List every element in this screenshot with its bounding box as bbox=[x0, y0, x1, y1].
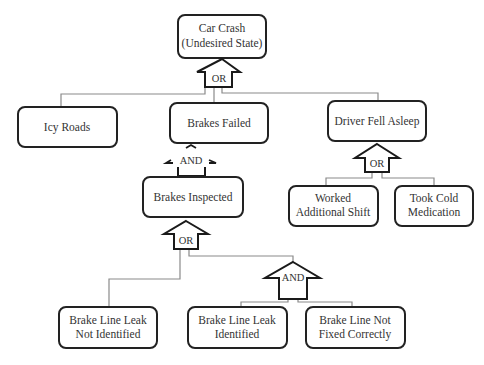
node-took-cold-medication-line1: Took Cold bbox=[410, 192, 459, 204]
gate-lower-and[interactable]: AND bbox=[265, 262, 320, 299]
and-gate-arrow-tip-icon bbox=[186, 145, 196, 148]
node-worked-additional-shift-line2: Additional Shift bbox=[296, 206, 371, 218]
connector-inspected-or-right bbox=[189, 250, 293, 262]
node-brake-line-leak-not-identified[interactable]: Brake Line Leak Not Identified bbox=[59, 307, 157, 348]
gate-driver-or[interactable]: OR bbox=[355, 144, 399, 172]
node-brake-line-leak-identified-line1: Brake Line Leak bbox=[198, 314, 276, 326]
connector-lower-and-right bbox=[298, 300, 352, 306]
gate-top-or-label: OR bbox=[212, 73, 227, 84]
connector-inspected-or-left bbox=[109, 250, 180, 306]
node-driver-fell-asleep[interactable]: Driver Fell Asleep bbox=[328, 101, 426, 141]
gate-brakes-failed-and[interactable]: AND bbox=[166, 145, 216, 176]
node-took-cold-medication[interactable]: Took Cold Medication bbox=[395, 186, 473, 226]
node-brake-line-leak-identified-line2: Identified bbox=[215, 328, 260, 340]
gate-brakes-failed-and-label: AND bbox=[180, 155, 203, 166]
node-brake-line-not-fixed-correctly-line2: Fixed Correctly bbox=[319, 328, 392, 341]
gate-inspected-or-label: OR bbox=[179, 235, 194, 246]
node-brake-line-not-fixed-correctly-line1: Brake Line Not bbox=[319, 314, 391, 326]
fault-tree-diagram: Car Crash (Undesired State) OR Icy Roads… bbox=[0, 0, 484, 365]
gate-lower-and-label: AND bbox=[282, 272, 305, 283]
node-brakes-inspected-label: Brakes Inspected bbox=[154, 191, 233, 204]
node-worked-additional-shift[interactable]: Worked Additional Shift bbox=[289, 186, 378, 226]
and-gate-arrow-body-icon bbox=[178, 167, 205, 176]
connector-lower-and-left bbox=[241, 300, 288, 306]
node-brakes-failed-label: Brakes Failed bbox=[187, 117, 251, 129]
connector-top-or-right bbox=[222, 86, 378, 101]
node-icy-roads-label: Icy Roads bbox=[44, 121, 91, 134]
gate-inspected-or[interactable]: OR bbox=[164, 221, 208, 249]
node-car-crash-line2: (Undesired State) bbox=[182, 37, 263, 50]
node-brakes-inspected[interactable]: Brakes Inspected bbox=[143, 177, 243, 217]
connector-driver-or-left bbox=[326, 172, 372, 186]
node-car-crash-line1: Car Crash bbox=[199, 22, 246, 34]
and-gate-arrow-right-wing-icon bbox=[209, 160, 216, 163]
node-brake-line-leak-identified[interactable]: Brake Line Leak Identified bbox=[188, 307, 287, 348]
gate-driver-or-label: OR bbox=[370, 158, 385, 169]
node-driver-fell-asleep-label: Driver Fell Asleep bbox=[335, 115, 420, 128]
gate-top-or[interactable]: OR bbox=[197, 59, 240, 87]
node-car-crash[interactable]: Car Crash (Undesired State) bbox=[178, 15, 266, 58]
node-worked-additional-shift-line1: Worked bbox=[315, 192, 351, 204]
node-brake-line-leak-not-identified-line1: Brake Line Leak bbox=[69, 314, 147, 326]
and-gate-arrow-left-wing-icon bbox=[166, 160, 173, 163]
node-brake-line-not-fixed-correctly[interactable]: Brake Line Not Fixed Correctly bbox=[306, 307, 405, 348]
node-brake-line-leak-not-identified-line2: Not Identified bbox=[76, 328, 141, 340]
connector-driver-or-right bbox=[382, 172, 434, 186]
node-icy-roads[interactable]: Icy Roads bbox=[18, 107, 117, 147]
node-brakes-failed[interactable]: Brakes Failed bbox=[170, 103, 268, 143]
node-took-cold-medication-line2: Medication bbox=[408, 206, 461, 218]
